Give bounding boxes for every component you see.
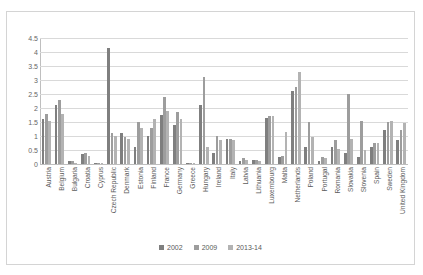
bar bbox=[58, 100, 61, 164]
bar bbox=[272, 116, 275, 164]
bar-group bbox=[79, 38, 92, 164]
x-axis-tick-text: Estonia bbox=[137, 167, 144, 189]
bar bbox=[42, 119, 45, 164]
bar-group bbox=[198, 38, 211, 164]
bar-group bbox=[395, 38, 408, 164]
bar bbox=[364, 150, 367, 164]
x-axis-tick-text: Cyprus bbox=[97, 167, 104, 188]
x-axis-tick-label: Czech Republic bbox=[110, 167, 118, 237]
x-axis-tick-text: Spain bbox=[373, 167, 380, 184]
bar bbox=[147, 136, 150, 164]
x-axis-tick-label: Sweden bbox=[386, 167, 394, 237]
legend-item: 2002 bbox=[159, 244, 183, 251]
bar bbox=[206, 147, 209, 164]
bar-group bbox=[369, 38, 382, 164]
bar bbox=[88, 156, 91, 164]
bar bbox=[295, 87, 298, 164]
bar bbox=[278, 157, 281, 164]
x-axis-tick-label: Germany bbox=[176, 167, 184, 237]
y-axis-labels: 00.511.522.533.544.5 bbox=[7, 38, 38, 164]
bar bbox=[120, 133, 123, 164]
x-axis-tick-text: Denmark bbox=[123, 167, 130, 194]
bar bbox=[189, 163, 192, 164]
bar bbox=[285, 132, 288, 164]
bar bbox=[203, 77, 206, 164]
x-axis-tick-label: Luxembourg bbox=[268, 167, 276, 237]
bar bbox=[308, 122, 311, 164]
x-axis-tick-label: Ireland bbox=[215, 167, 223, 237]
bar bbox=[134, 147, 137, 164]
bar bbox=[245, 160, 248, 164]
bar-group bbox=[277, 38, 290, 164]
bar bbox=[114, 136, 117, 164]
x-axis-tick-text: Greece bbox=[189, 167, 196, 189]
legend-label: 2009 bbox=[202, 244, 218, 251]
bar bbox=[153, 119, 156, 164]
x-axis-tick-text: Lithuania bbox=[255, 167, 262, 194]
bar-group bbox=[145, 38, 158, 164]
x-axis-tick-label: Slovakia bbox=[347, 167, 355, 237]
legend-item: 2013-14 bbox=[228, 244, 262, 251]
bar bbox=[281, 156, 284, 164]
bar bbox=[186, 163, 189, 164]
bar-group bbox=[382, 38, 395, 164]
bar-group bbox=[237, 38, 250, 164]
x-axis-tick-text: Slovakia bbox=[347, 167, 354, 192]
x-axis-tick-label: Spain bbox=[373, 167, 381, 237]
bar bbox=[403, 123, 406, 164]
bar-group bbox=[93, 38, 106, 164]
bar bbox=[242, 158, 245, 164]
bar bbox=[390, 121, 393, 164]
x-axis-tick-label: Romania bbox=[334, 167, 342, 237]
x-axis-tick-label: Belgium bbox=[58, 167, 66, 237]
bar bbox=[137, 122, 140, 164]
bar-group bbox=[66, 38, 79, 164]
x-axis-tick-label: Estonia bbox=[137, 167, 145, 237]
bar bbox=[334, 140, 337, 164]
y-axis-tick-label: 0.5 bbox=[10, 147, 38, 154]
bar bbox=[331, 147, 334, 164]
bar bbox=[291, 91, 294, 164]
bar-group bbox=[171, 38, 184, 164]
bar-group bbox=[290, 38, 303, 164]
bar bbox=[176, 112, 179, 164]
bar-group bbox=[263, 38, 276, 164]
legend-swatch-icon bbox=[194, 245, 199, 250]
x-axis-tick-label: Greece bbox=[189, 167, 197, 237]
x-axis-tick-label: France bbox=[163, 167, 171, 237]
bar bbox=[45, 114, 48, 164]
bar bbox=[173, 125, 176, 164]
legend-label: 2013-14 bbox=[236, 244, 262, 251]
bar bbox=[107, 48, 110, 164]
bar-group bbox=[303, 38, 316, 164]
bar bbox=[166, 111, 169, 164]
y-axis-tick-label: 2 bbox=[10, 105, 38, 112]
x-axis-tick-label: Croatia bbox=[84, 167, 92, 237]
x-axis-tick-label: Bulgaria bbox=[71, 167, 79, 237]
bar bbox=[127, 139, 130, 164]
x-axis-tick-label: Poland bbox=[307, 167, 315, 237]
x-axis-tick-text: France bbox=[163, 167, 170, 188]
bar bbox=[101, 163, 104, 164]
chart-container: 00.511.522.533.544.5 AustriaBelgiumBulga… bbox=[6, 11, 415, 265]
x-axis-tick-text: Hungary bbox=[202, 167, 209, 192]
bar bbox=[344, 153, 347, 164]
x-axis-tick-text: Italy bbox=[229, 167, 236, 179]
bar bbox=[321, 157, 324, 164]
bar bbox=[318, 161, 321, 164]
x-axis-tick-label: Cyprus bbox=[97, 167, 105, 237]
bar bbox=[298, 72, 301, 164]
chart-legend: 200220092013-14 bbox=[7, 244, 414, 251]
bar bbox=[373, 143, 376, 164]
bar bbox=[324, 158, 327, 164]
x-axis-tick-text: Czech Republic bbox=[110, 167, 117, 213]
bar bbox=[140, 128, 143, 164]
plot-area bbox=[40, 38, 408, 164]
x-axis-tick-text: Sweden bbox=[386, 167, 393, 191]
x-axis-tick-label: Slovenia bbox=[360, 167, 368, 237]
bar bbox=[226, 139, 229, 164]
bar bbox=[239, 161, 242, 164]
bar bbox=[124, 137, 127, 164]
y-axis-tick-label: 3 bbox=[10, 77, 38, 84]
legend-label: 2002 bbox=[167, 244, 183, 251]
